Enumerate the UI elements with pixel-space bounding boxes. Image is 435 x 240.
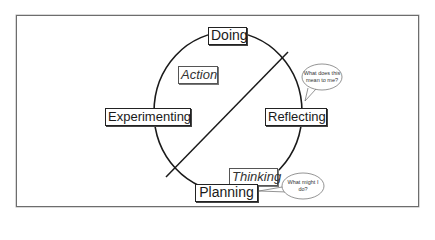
node-experimenting-label: Experimenting	[108, 109, 191, 124]
speech-bubble-reflecting-text: What does this mean to me?	[302, 70, 342, 84]
node-experimenting: Experimenting	[105, 108, 191, 126]
bubble-line: What does this	[302, 70, 342, 77]
region-action: Action	[178, 66, 218, 84]
node-reflecting: Reflecting	[265, 108, 327, 126]
node-reflecting-label: Reflecting	[268, 109, 326, 124]
bubble-line: mean to me?	[302, 77, 342, 84]
region-thinking-label: Thinking	[232, 169, 281, 184]
node-planning-label: Planning	[199, 184, 254, 200]
node-doing: Doing	[208, 27, 247, 45]
bubble-line: do?	[283, 186, 323, 193]
node-planning: Planning	[195, 184, 258, 202]
bubble-line: What might I	[283, 179, 323, 186]
node-doing-label: Doing	[211, 27, 248, 43]
region-action-label: Action	[181, 67, 217, 82]
speech-bubble-planning-text: What might I do?	[283, 179, 323, 193]
